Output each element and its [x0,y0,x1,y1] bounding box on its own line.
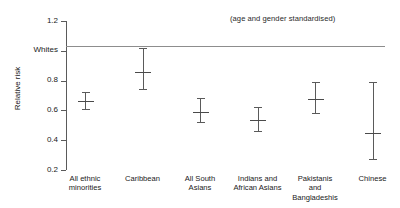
error-bar-cap-lower [82,109,90,110]
error-bar-cap-lower [254,131,262,132]
y-tick-mark [61,21,66,22]
error-bar-cap-upper [312,82,320,83]
point-estimate-marker [78,101,94,102]
chart-annotation: (age and gender standardised) [230,14,335,23]
error-bar-whisker [200,98,201,122]
error-bar-cap-upper [369,82,377,83]
point-estimate-marker [365,133,381,134]
y-tick-label: 0.2 [12,165,58,174]
error-bar-cap-lower [197,122,205,123]
error-bar-cap-lower [139,89,147,90]
y-axis-line [66,21,67,170]
x-axis-category-label: Chinese [338,174,400,183]
whites-reference-line [66,46,385,47]
error-bar-whisker [143,48,144,89]
y-tick-mark [61,140,66,141]
y-tick-mark [61,81,66,82]
y-tick-label: 0.6 [12,105,58,114]
y-tick-mark [61,110,66,111]
error-bar-cap-upper [139,48,147,49]
error-bar-whisker [258,107,259,131]
y-tick-label: 0.4 [12,135,58,144]
y-tick-label: 1.2 [12,16,58,25]
point-estimate-marker [193,112,209,113]
error-bar-whisker [315,82,316,113]
point-estimate-marker [250,120,266,121]
category-label-line: Chinese [338,174,400,183]
error-bar-whisker [373,82,374,159]
point-estimate-marker [308,99,324,100]
point-estimate-marker [135,72,151,73]
error-bar-cap-upper [82,92,90,93]
y-tick-mark [61,51,66,52]
y-tick-label: 0.8 [12,75,58,84]
category-label-line: and [280,183,350,192]
error-bar-cap-upper [254,107,262,108]
error-bar-cap-lower [369,159,377,160]
error-bar-cap-lower [312,113,320,114]
category-label-line: Bangladeshis [280,193,350,202]
y-tick-label: Whites [12,45,58,54]
category-label-line: minorities [50,183,120,192]
y-tick-mark [61,170,66,171]
error-bar-cap-upper [197,98,205,99]
relative-risk-chart: (age and gender standardised) Relative r… [0,0,400,208]
